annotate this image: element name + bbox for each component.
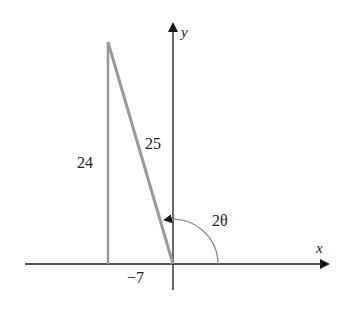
hypotenuse-label: 25 [145, 135, 161, 152]
horizontal-leg-label: −7 [127, 269, 144, 286]
y-axis-label: y [179, 24, 188, 40]
x-axis-label: x [315, 240, 323, 256]
vertical-leg-label: 24 [77, 154, 93, 171]
hypotenuse [108, 42, 173, 264]
triangle-diagram: y x 24 25 −7 2θ [0, 0, 339, 311]
angle-label: 2θ [212, 212, 228, 229]
